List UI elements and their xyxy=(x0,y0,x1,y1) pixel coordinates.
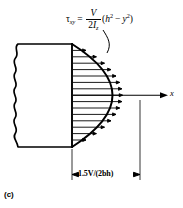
beam-outline xyxy=(14,44,72,147)
figure-container: τxy = V 2Iz (h2 −y2) 1.5V/(2bh) x (c) xyxy=(0,0,183,208)
formula-leader-line xyxy=(103,30,109,53)
x-axis-arrowhead xyxy=(160,92,168,98)
shear-stress-diagram xyxy=(0,0,183,208)
dimension-line xyxy=(72,172,140,176)
